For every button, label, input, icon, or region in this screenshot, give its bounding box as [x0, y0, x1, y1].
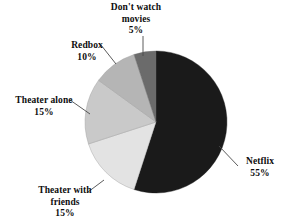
pie-slices: [85, 51, 227, 193]
pie-label-theater-with-friends: Theater with friends 15%: [24, 185, 106, 220]
leader-line-netflix: [219, 146, 238, 166]
pie-label-dont-watch-movies: Don't watch movies 5%: [96, 2, 176, 37]
pie-label-theater-alone: Theater alone 15%: [2, 95, 86, 118]
pie-label-redbox: Redbox 10%: [56, 40, 118, 63]
pie-chart-figure: Don't watch movies 5% Redbox 10% Theater…: [0, 0, 282, 224]
pie-label-netflix: Netflix 55%: [238, 156, 282, 179]
